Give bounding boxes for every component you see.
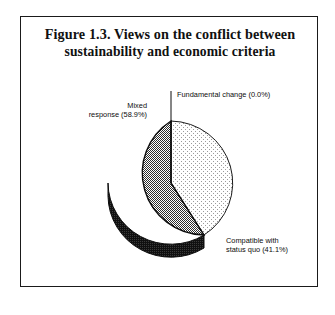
figure-container: Figure 1.3. Views on the conflict betwee… [20,16,318,287]
pie-label-mixed-response-line-1: Mixed [23,101,147,110]
pie-label-fundamental-change: Fundamental change (0.0%) [177,90,270,99]
pie-chart-plot-area: Fundamental change (0.0%) Mixed response… [21,17,319,288]
pie-label-compatible-status-quo-line-1: Compatible with [226,236,288,245]
pie-label-mixed-response: Mixed response (58.9%) [23,101,147,119]
pie-label-compatible-status-quo: Compatible with status quo (41.1%) [226,236,288,254]
pie-label-mixed-response-line-2: response (58.9%) [23,110,147,119]
pie-label-fundamental-change-line-1: Fundamental change (0.0%) [177,90,270,99]
pie-label-compatible-status-quo-line-2: status quo (41.1%) [226,245,288,254]
